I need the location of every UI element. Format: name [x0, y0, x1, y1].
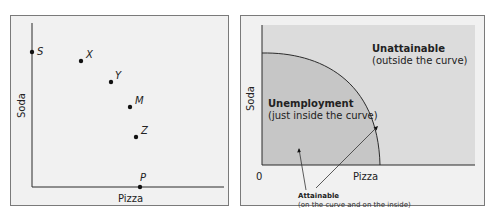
attainable-subtitle: (on the curve and on the inside) [298, 201, 411, 209]
right-x-axis-label: Pizza [353, 171, 378, 182]
point-m-dot [128, 105, 132, 109]
left-x-axis-label: Pizza [118, 193, 143, 204]
point-s-label: S [37, 46, 44, 57]
right-y-axis-label: Soda [245, 86, 256, 111]
point-z-dot [134, 135, 138, 139]
left-panel-frame [11, 16, 229, 206]
unattainable-title: Unattainable [372, 43, 445, 54]
right-panel: Soda 0 Pizza Unattainable (outside the c… [241, 16, 485, 210]
left-y-axis-label: Soda [16, 93, 27, 118]
point-s-dot [30, 50, 34, 54]
origin-label: 0 [256, 171, 262, 182]
point-y-label: Y [115, 70, 122, 81]
point-z-label: Z [140, 125, 149, 136]
point-m-label: M [135, 95, 144, 106]
left-panel: Soda Pizza S X Y M Z P [11, 16, 229, 206]
unemployment-title: Unemployment [268, 98, 354, 109]
point-p-dot [138, 185, 142, 189]
unemployment-subtitle: (just inside the curve) [268, 110, 378, 121]
point-x-dot [79, 59, 83, 63]
ppf-diagram: Soda Pizza S X Y M Z P [0, 0, 489, 224]
point-y-dot [109, 80, 113, 84]
unattainable-subtitle: (outside the curve) [372, 55, 468, 66]
attainable-title: Attainable [298, 192, 339, 200]
point-x-label: X [85, 49, 94, 60]
point-p-label: P [140, 172, 147, 183]
